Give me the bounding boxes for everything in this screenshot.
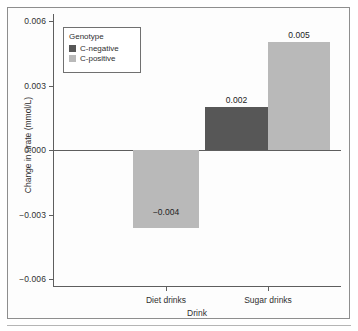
y-tick-mark--0.006 [49,279,54,280]
x-tick-mark-diet-drinks [166,286,167,291]
x-axis-title: Drink [53,308,341,318]
y-tick-mark-0.000 [49,150,54,151]
y-tick-mark-0.006 [49,21,54,22]
bar-label-diet-drinks-c-positive: −0.004 [133,207,199,217]
x-axis-line [53,286,341,287]
bar-sugar-drinks-c-negative[interactable] [205,107,268,150]
y-axis-title: Change in urate (mmol/L) [23,55,33,235]
legend-title: Genotype [69,32,135,41]
legend-swatch-icon-c-negative [69,45,76,52]
page-rule-divider [7,325,351,326]
y-tick-label-4: −0.006 [6,274,46,284]
legend-label-c-positive: C-positive [80,54,116,63]
legend-item-c-negative[interactable]: C-negative [69,44,135,53]
x-tick-label-diet-drinks: Diet drinks [121,295,211,305]
bar-label-sugar-drinks-c-negative: 0.002 [205,95,268,105]
bar-sugar-drinks-c-positive[interactable] [268,42,330,150]
legend-item-c-positive[interactable]: C-positive [69,54,135,63]
bar-label-sugar-drinks-c-positive: 0.005 [268,30,330,40]
x-tick-mark-sugar-drinks [268,286,269,291]
y-tick-mark--0.003 [49,215,54,216]
legend: Genotype C-negative C-positive [63,27,141,73]
legend-label-c-negative: C-negative [80,44,119,53]
y-tick-label-0: 0.006 [6,16,46,26]
legend-swatch-icon-c-positive [69,55,76,62]
x-tick-label-sugar-drinks: Sugar drinks [223,295,313,305]
y-tick-mark-0.003 [49,86,54,87]
